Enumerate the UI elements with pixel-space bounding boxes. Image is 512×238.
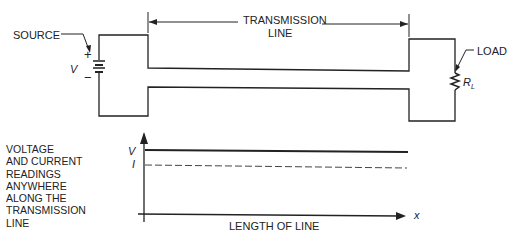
resistor-icon bbox=[451, 73, 459, 90]
graph-description: VOLTAGE AND CURRENT READINGS ANYWHERE AL… bbox=[6, 143, 86, 229]
resistor-symbol: R bbox=[463, 76, 471, 88]
voltage-symbol: V bbox=[70, 63, 77, 75]
description-line: VOLTAGE bbox=[6, 143, 86, 155]
resistor-subscript: L bbox=[471, 83, 475, 90]
plus-sign: + bbox=[84, 49, 92, 61]
description-line: TRANSMISSION bbox=[6, 204, 86, 216]
x-axis-symbol: x bbox=[414, 209, 420, 221]
current-line bbox=[145, 165, 407, 168]
description-line: LINE bbox=[6, 217, 86, 229]
transmission-line-label: TRANSMISSION bbox=[243, 14, 327, 26]
source-label: SOURCE bbox=[13, 29, 60, 41]
load-leader bbox=[455, 50, 474, 72]
battery-icon bbox=[93, 61, 105, 72]
transmission-line-label-2: LINE bbox=[268, 27, 292, 39]
minus-sign: − bbox=[84, 72, 92, 84]
circuit-wires bbox=[99, 35, 455, 121]
description-line: AND CURRENT bbox=[6, 155, 86, 167]
description-line: ANYWHERE bbox=[6, 180, 86, 192]
description-line: READINGS bbox=[6, 168, 86, 180]
voltage-line bbox=[145, 150, 408, 152]
graph-axes bbox=[138, 132, 406, 222]
resistor-label: RL bbox=[463, 76, 475, 93]
load-label: LOAD bbox=[477, 45, 507, 57]
graph-i-label: I bbox=[132, 158, 135, 170]
x-axis-label: LENGTH OF LINE bbox=[229, 220, 319, 232]
graph-v-label: V bbox=[128, 145, 135, 157]
description-line: ALONG THE bbox=[6, 192, 86, 204]
